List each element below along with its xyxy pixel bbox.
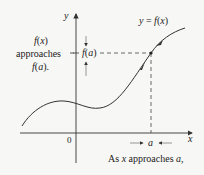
left-annotation-line1: f(x)	[34, 35, 48, 47]
y-axis-label: y	[63, 10, 69, 21]
bottom-annotation: As x approaches a,	[108, 153, 184, 164]
origin-label: 0	[67, 135, 72, 145]
fa-label: f(a)	[82, 47, 96, 59]
curve-equation-label: y = f(x)	[138, 15, 168, 27]
curve-arrow-left-icon	[140, 62, 145, 70]
limit-point	[149, 51, 152, 54]
a-label: a	[148, 137, 153, 148]
left-annotation-line3: f(a).	[32, 61, 49, 73]
limit-diagram: y x 0 y = f(x) f(a) a f(x) approaches f(…	[0, 0, 204, 175]
x-axis-label: x	[187, 133, 193, 144]
left-annotation-line2: approaches	[16, 48, 61, 59]
